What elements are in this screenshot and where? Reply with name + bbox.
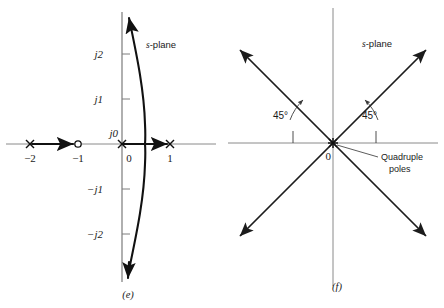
panel-e-locus-branch-lower-arrow <box>128 262 129 278</box>
panel-f-annotation-line2: poles <box>389 164 411 174</box>
panel-e-plane-label-rest: -plane <box>150 39 176 50</box>
panel-f-origin-label: 0 <box>326 150 332 162</box>
panel-f-angle-left-label: 45° <box>273 110 288 121</box>
panel-e: j2 j1 j0 −j1 −j2 −2 −1 0 1 <box>6 12 216 301</box>
panel-f-ray-northeast <box>333 50 426 143</box>
panel-f-ray-northwest <box>240 50 333 143</box>
panel-f-plane-label: s-plane <box>362 38 392 49</box>
panel-e-label-minus2: −2 <box>24 152 36 164</box>
panel-e-label-one: 1 <box>167 152 173 164</box>
panel-e-zero-marker-minus1 <box>75 141 81 147</box>
panel-f-quadruple-pole-marker <box>328 138 338 148</box>
panel-e-label-j1: j1 <box>92 93 103 105</box>
panel-f-annotation-line1: Quadruple <box>381 152 423 162</box>
panel-e-caption: (e) <box>122 289 134 301</box>
panel-f-ray-southwest <box>240 143 333 236</box>
panel-f: 45° 45° 0 Quadruple poles s-plane (f) <box>228 8 438 293</box>
panel-f-angle-right-label: 45° <box>362 110 377 121</box>
panel-e-label-j0: j0 <box>107 127 118 139</box>
panel-e-label-neg-j2: −j2 <box>87 228 103 240</box>
panel-e-label-zero: 0 <box>126 152 132 164</box>
panel-f-plane-label-rest: -plane <box>366 38 392 49</box>
figure-root-locus-plots: j2 j1 j0 −j1 −j2 −2 −1 0 1 <box>0 0 444 308</box>
panel-e-plane-label: s-plane <box>146 39 176 50</box>
panel-e-label-neg-j1: −j1 <box>87 183 103 195</box>
panel-e-locus-branch-upper <box>129 18 145 144</box>
panel-e-label-minus1: −1 <box>72 152 84 164</box>
figure-svg: j2 j1 j0 −j1 −j2 −2 −1 0 1 <box>0 0 444 308</box>
panel-f-caption: (f) <box>332 281 342 293</box>
panel-f-annotation-leader <box>337 145 378 157</box>
panel-e-label-j2: j2 <box>92 48 103 60</box>
